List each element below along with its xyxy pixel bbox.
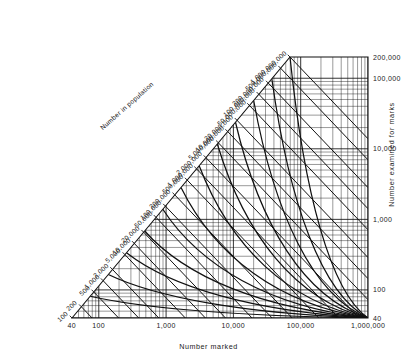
y-axis-title: Number examined for marks: [386, 102, 395, 206]
x-tick-label: 100: [92, 322, 105, 329]
x-tick-label: 1,000: [157, 322, 176, 329]
nomogram-figure: Number marked Number examined for marks …: [0, 0, 417, 355]
nomogram-plot: [0, 0, 417, 355]
y-tick-label: 200,000: [373, 54, 401, 61]
y-tick-label: 10,000: [373, 145, 397, 152]
recapture-curves: [72, 57, 368, 318]
x-tick-label: 40: [68, 322, 77, 329]
x-tick-label: 10,000: [221, 322, 245, 329]
x-tick-label: 1,000,000: [351, 322, 385, 329]
y-tick-label: 1,000: [373, 216, 392, 223]
x-tick-label: 100,000: [287, 322, 315, 329]
y-tick-label: 100: [373, 286, 386, 293]
diagonal-tick-marks: [70, 55, 290, 318]
y-tick-label: 100,000: [373, 75, 401, 82]
y-tick-label: 40: [373, 315, 382, 322]
x-axis-title: Number marked: [0, 342, 417, 351]
